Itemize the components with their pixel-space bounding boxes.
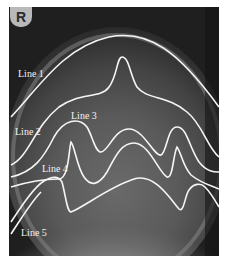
line-3-label: Line 3 bbox=[71, 111, 97, 121]
line-1-label: Line 1 bbox=[18, 69, 44, 79]
xray-figure: R Line 1 Line 2 Line 3 Line 4 Line 5 bbox=[9, 7, 219, 256]
line-2-label: Line 2 bbox=[15, 127, 41, 137]
orientation-marker: R bbox=[10, 7, 32, 27]
line-4-label: Line 4 bbox=[42, 164, 68, 174]
line-5-label: Line 5 bbox=[21, 228, 47, 238]
